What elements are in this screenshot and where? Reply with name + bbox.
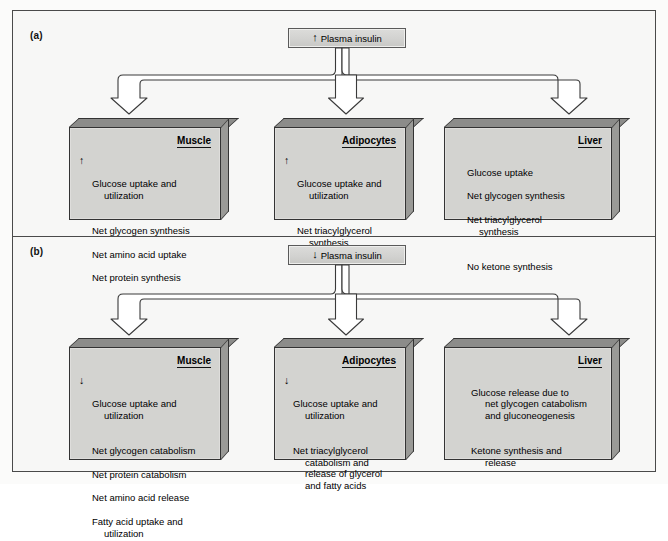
list-item-cont: synthesis: [467, 226, 603, 238]
box-top-face: [69, 338, 239, 347]
down-arrow-icon: ↓: [79, 375, 84, 387]
up-arrow-icon: ↑: [284, 155, 289, 167]
list-item-text: Glucose uptake and: [297, 178, 382, 189]
panel-b-tissue-adipocytes: Adipocytes ↓ Glucose uptake and utilizat…: [274, 338, 414, 460]
down-arrow-icon: ↓: [312, 249, 318, 260]
list-item-text: Net triacylglycerol: [293, 445, 368, 456]
list-item-text: Net triacylglycerol: [297, 225, 372, 236]
list-item-text: Net glycogen synthesis: [467, 190, 565, 201]
list-item-cont: utilization: [297, 190, 397, 202]
down-arrow-icon: ↓: [284, 375, 289, 387]
up-arrow-icon: ↑: [79, 155, 84, 167]
list-item: ↓ Glucose uptake and utilization: [78, 375, 212, 433]
box-front-face: Adipocytes ↓ Glucose uptake and utilizat…: [274, 347, 406, 460]
list-item-cont: net glycogen catabolism and gluconeogene…: [471, 398, 603, 421]
list-item-cont: utilization: [92, 528, 212, 540]
box-side-face: [221, 338, 229, 460]
list-item-text: Fatty acid uptake and: [92, 516, 183, 527]
list-item-text: Ketone synthesis and: [471, 445, 562, 456]
box-front-face: Liver Glucose uptake Net glycogen synthe…: [444, 127, 612, 220]
box-side-face: [406, 118, 414, 220]
panel-a-tissue-adipocytes: Adipocytes ↑ Glucose uptake and utilizat…: [274, 118, 414, 220]
panel-a-tissue-liver: Liver Glucose uptake Net glycogen synthe…: [444, 118, 620, 220]
panel-b-plasma-insulin-box: ↓ Plasma insulin: [288, 245, 406, 265]
list-item: Net protein catabolism: [78, 457, 212, 480]
box-front-face: Muscle ↓ Glucose uptake and utilization …: [69, 347, 221, 460]
box-side-face: [221, 118, 229, 220]
panel-a-plasma-insulin-label: Plasma insulin: [321, 33, 382, 44]
list-item-text: Net triacylglycerol: [467, 214, 542, 225]
box-top-face: [444, 338, 630, 347]
list-item-text: Glucose uptake and: [92, 398, 177, 409]
box-side-face: [406, 338, 414, 460]
tissue-title-adipocytes: Adipocytes: [342, 355, 396, 368]
list-item-text: Glucose release due to: [471, 387, 569, 398]
panel-b-tissue-muscle: Muscle ↓ Glucose uptake and utilization …: [69, 338, 229, 460]
list-item: Glucose uptake: [453, 155, 603, 178]
box-top-face: [69, 118, 239, 127]
tissue-title-liver: Liver: [578, 135, 602, 148]
tissue-title-adipocytes: Adipocytes: [342, 135, 396, 148]
list-item: Net glycogen catabolism: [78, 433, 212, 456]
box-side-face: [612, 338, 620, 460]
list-item-cont: release: [471, 457, 603, 469]
list-item-text: Net glycogen catabolism: [92, 445, 196, 456]
tissue-items-muscle: ↓ Glucose uptake and utilization Net gly…: [70, 375, 220, 541]
panel-a-label: (a): [30, 30, 43, 41]
list-item: Ketone synthesis and release: [453, 433, 603, 479]
list-item-text: Glucose uptake and: [92, 178, 177, 189]
list-item: ↑ Glucose uptake and utilization: [78, 155, 212, 213]
tissue-title-muscle: Muscle: [177, 135, 211, 148]
tissue-items-liver: Glucose release due to net glycogen cata…: [445, 375, 611, 480]
list-item-text: Net glycogen synthesis: [92, 225, 190, 236]
list-item: Net triacylglycerol catabolism and relea…: [283, 433, 397, 503]
panel-a-plasma-insulin-box: ↑ Plasma insulin: [288, 28, 406, 48]
list-item: Net glycogen synthesis: [78, 213, 212, 236]
panel-b-plasma-insulin-label: Plasma insulin: [321, 250, 382, 261]
panel-a-tissue-muscle: Muscle ↑ Glucose uptake and utilization …: [69, 118, 229, 220]
list-item-text: Net amino acid release: [92, 492, 189, 503]
tissue-items-adipocytes: ↓ Glucose uptake and utilization Net tri…: [275, 375, 405, 504]
list-item-cont: utilization: [293, 410, 397, 422]
panel-a: (a) ↑ Plasma insulin Muscle: [12, 10, 656, 236]
list-item-cont: utilization: [92, 190, 212, 202]
box-top-face: [274, 118, 424, 127]
box-front-face: Adipocytes ↑ Glucose uptake and utilizat…: [274, 127, 406, 220]
box-front-face: Liver Glucose release due to net glycoge…: [444, 347, 612, 460]
list-item: ↓ Glucose uptake and utilization: [283, 375, 397, 433]
list-item: Net amino acid release: [78, 481, 212, 504]
tissue-title-muscle: Muscle: [177, 355, 211, 368]
list-item-text: Glucose uptake and: [293, 398, 378, 409]
list-item-cont: catabolism and release of glycerol and f…: [293, 457, 397, 492]
list-item-text: Net protein catabolism: [92, 469, 187, 480]
list-item: Net glycogen synthesis: [453, 179, 603, 202]
list-item-text: Glucose uptake: [467, 167, 533, 178]
box-top-face: [444, 118, 630, 127]
box-front-face: Muscle ↑ Glucose uptake and utilization …: [69, 127, 221, 220]
list-item: Glucose release due to net glycogen cata…: [453, 375, 603, 433]
list-item: Fatty acid uptake and utilization: [78, 505, 212, 541]
list-item: ↑ Glucose uptake and utilization: [283, 155, 397, 213]
box-top-face: [274, 338, 424, 347]
panel-b-label: (b): [30, 246, 43, 257]
box-side-face: [612, 118, 620, 220]
tissue-title-liver: Liver: [578, 355, 602, 368]
panel-b: (b) ↓ Plasma insulin Muscle ↓ Glucose up…: [12, 237, 656, 472]
panel-b-tissue-liver: Liver Glucose release due to net glycoge…: [444, 338, 620, 460]
up-arrow-icon: ↑: [312, 32, 318, 43]
list-item-cont: utilization: [92, 410, 212, 422]
